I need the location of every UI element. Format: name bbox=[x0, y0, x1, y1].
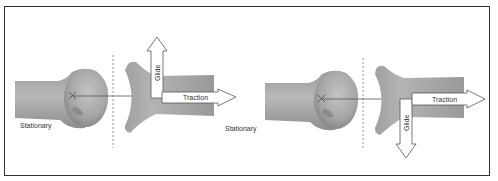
stationary-label-right: Stationary bbox=[225, 125, 257, 133]
right-panel: Glide Traction bbox=[265, 58, 485, 158]
convex-bone-left bbox=[15, 69, 108, 129]
traction-label-right: Traction bbox=[432, 96, 457, 103]
convex-bone-right bbox=[265, 71, 358, 131]
traction-label-left: Traction bbox=[183, 94, 208, 101]
left-panel: Glide Traction Stationary bbox=[15, 37, 236, 148]
joint-glide-diagram: Glide Traction Stationary Stationary Gli… bbox=[0, 0, 498, 181]
stationary-label-left: Stationary bbox=[20, 122, 52, 130]
glide-label-left: Glide bbox=[154, 65, 161, 81]
glide-label-right: Glide bbox=[403, 115, 410, 131]
traction-arrow-right: Traction bbox=[412, 90, 485, 108]
